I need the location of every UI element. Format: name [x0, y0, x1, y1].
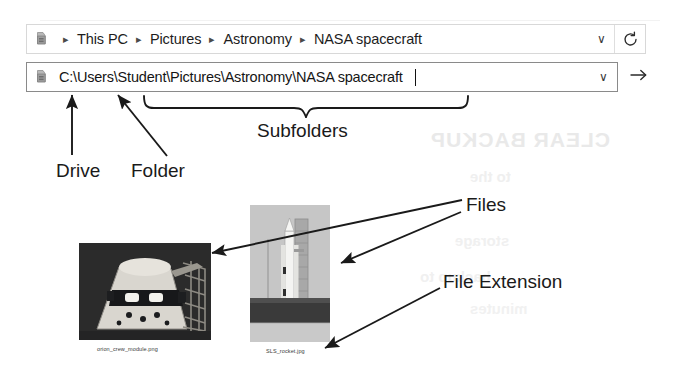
bleed-text-3: storage [455, 232, 509, 249]
breadcrumb[interactable]: ▸ This PC ▸ Pictures ▸ Astronomy ▸ NASA … [53, 31, 588, 47]
breadcrumb-separator-0: ▸ [57, 34, 75, 45]
annotation-label-drive: Drive [56, 160, 100, 182]
file-caption-orion-crew-module: orion_crew_module.png [97, 346, 158, 352]
drive-icon [31, 28, 53, 50]
annotation-arrow-files-2 [341, 212, 461, 263]
bleed-text-5: minutes [470, 300, 528, 317]
go-button[interactable] [622, 62, 656, 92]
scan-artifact-line [40, 20, 660, 21]
annotation-label-folder: Folder [131, 160, 185, 182]
breadcrumb-item-pictures[interactable]: Pictures [148, 31, 204, 47]
refresh-icon[interactable] [615, 31, 645, 48]
breadcrumb-separator-1: ▸ [130, 34, 148, 45]
path-input-bar[interactable]: C:\Users\Student\Pictures\Astronomy\NASA… [26, 62, 618, 92]
breadcrumb-separator-2: ▸ [203, 34, 221, 45]
annotation-label-subfolders: Subfolders [257, 120, 348, 142]
annotation-brace-subfolders [144, 96, 468, 117]
breadcrumb-address-bar[interactable]: ▸ This PC ▸ Pictures ▸ Astronomy ▸ NASA … [26, 24, 646, 54]
scanned-figure: CLEAR BACKUP to the storage backup to mi… [0, 0, 677, 386]
breadcrumb-separator-3: ▸ [294, 34, 312, 45]
annotation-label-files: Files [466, 194, 506, 216]
file-thumbnail-orion-crew-module[interactable] [79, 243, 211, 340]
text-cursor [415, 69, 416, 86]
arrow-right-icon [629, 67, 649, 87]
file-caption-sls-rocket: SLS_rocket.jpg [266, 348, 305, 354]
chevron-down-icon[interactable]: ∨ [589, 70, 617, 84]
annotation-arrow-folder [118, 95, 167, 156]
drive-icon [31, 66, 53, 88]
annotation-label-file-extension: File Extension [443, 271, 562, 293]
breadcrumb-item-astronomy[interactable]: Astronomy [221, 31, 293, 47]
annotation-arrow-file-extension [325, 288, 440, 348]
path-input-value[interactable]: C:\Users\Student\Pictures\Astronomy\NASA… [53, 69, 403, 85]
chevron-down-icon[interactable]: ∨ [588, 32, 614, 46]
bleed-text-1: CLEAR BACKUP [430, 128, 610, 152]
breadcrumb-item-this-pc[interactable]: This PC [75, 31, 130, 47]
bleed-text-2: to the [470, 168, 511, 185]
file-thumbnail-sls-rocket[interactable] [250, 205, 330, 342]
breadcrumb-item-nasa-spacecraft[interactable]: NASA spacecraft [312, 31, 424, 47]
